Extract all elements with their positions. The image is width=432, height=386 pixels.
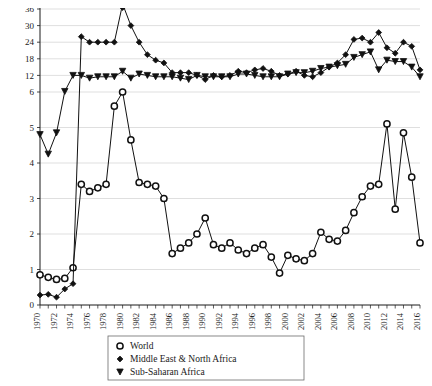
data-point-open-circle bbox=[334, 238, 340, 244]
data-point-open-circle bbox=[111, 103, 117, 109]
x-tick-label: 1972 bbox=[49, 313, 59, 330]
data-point-filled-triangle bbox=[45, 151, 51, 157]
data-point-filled-diamond bbox=[136, 39, 142, 45]
data-point-open-circle bbox=[186, 240, 192, 246]
data-point-open-circle bbox=[95, 185, 101, 191]
data-point-filled-diamond bbox=[384, 45, 390, 51]
data-point-filled-diamond bbox=[153, 57, 159, 63]
data-point-filled-triangle bbox=[359, 52, 365, 58]
data-point-filled-diamond bbox=[95, 39, 101, 45]
x-tick-label: 1990 bbox=[197, 313, 207, 330]
data-point-open-circle bbox=[301, 258, 307, 264]
data-point-filled-diamond bbox=[417, 67, 423, 73]
data-point-filled-triangle bbox=[37, 132, 43, 138]
x-tick-label: 1992 bbox=[214, 313, 224, 330]
data-point-open-circle bbox=[45, 274, 51, 280]
x-tick-label: 2016 bbox=[412, 313, 422, 330]
data-point-open-circle bbox=[252, 245, 258, 251]
x-tick-label: 1988 bbox=[181, 313, 191, 330]
data-point-filled-diamond bbox=[45, 291, 51, 297]
data-point-open-circle bbox=[235, 247, 241, 253]
data-point-open-circle bbox=[409, 174, 415, 180]
data-point-open-circle bbox=[194, 231, 200, 237]
y-tick-label: 24 bbox=[25, 37, 35, 47]
x-tick-label: 1984 bbox=[148, 312, 158, 330]
y-axis-ticks: 01234561218243036 bbox=[25, 4, 40, 310]
data-point-open-circle bbox=[128, 137, 134, 143]
data-point-filled-diamond bbox=[260, 66, 266, 72]
data-point-open-circle bbox=[86, 188, 92, 194]
data-point-open-circle bbox=[177, 245, 183, 251]
data-point-filled-diamond bbox=[351, 37, 357, 43]
data-point-open-circle bbox=[161, 195, 167, 201]
x-axis-ticks: 1970197219741976197819801982198419861988… bbox=[32, 305, 422, 330]
data-point-filled-diamond bbox=[144, 52, 150, 58]
x-tick-label: 1982 bbox=[131, 313, 141, 330]
y-tick-label: 3 bbox=[30, 194, 35, 204]
legend-label: Middle East & North Africa bbox=[130, 354, 237, 364]
y-tick-label: 18 bbox=[25, 54, 35, 64]
data-point-open-circle bbox=[268, 254, 274, 260]
gridlines bbox=[40, 9, 420, 270]
data-point-open-circle bbox=[260, 242, 266, 248]
data-point-open-circle bbox=[219, 245, 225, 251]
data-point-open-circle bbox=[326, 236, 332, 242]
data-point-open-circle bbox=[169, 250, 175, 256]
x-tick-label: 1986 bbox=[164, 313, 174, 330]
chart-container: 0123456121824303619701972197419761978198… bbox=[0, 0, 432, 386]
data-point-filled-diamond bbox=[37, 292, 43, 298]
x-tick-label: 2010 bbox=[362, 313, 372, 330]
data-point-filled-diamond bbox=[178, 70, 184, 76]
data-point-open-circle bbox=[37, 272, 43, 278]
x-tick-label: 1998 bbox=[263, 313, 273, 330]
data-point-filled-triangle bbox=[128, 75, 134, 81]
x-tick-label: 1978 bbox=[98, 313, 108, 330]
data-point-open-circle bbox=[243, 250, 249, 256]
data-point-open-circle bbox=[103, 181, 109, 187]
y-tick-label: 12 bbox=[25, 71, 34, 81]
data-point-filled-diamond bbox=[252, 67, 258, 73]
data-point-open-circle bbox=[392, 206, 398, 212]
y-tick-label: 0 bbox=[30, 300, 35, 310]
x-tick-label: 2004 bbox=[313, 312, 323, 330]
series-line bbox=[40, 52, 420, 154]
y-tick-label: 6 bbox=[30, 87, 35, 97]
data-point-filled-diamond bbox=[78, 34, 84, 40]
x-tick-label: 2000 bbox=[280, 313, 290, 330]
data-point-open-circle bbox=[78, 181, 84, 187]
data-point-open-circle bbox=[227, 240, 233, 246]
data-point-open-circle bbox=[359, 194, 365, 200]
data-point-open-circle bbox=[120, 89, 126, 95]
data-point-open-circle bbox=[293, 256, 299, 262]
series-sub-saharan-africa bbox=[37, 49, 423, 157]
data-point-open-circle bbox=[310, 250, 316, 256]
x-tick-label: 1994 bbox=[230, 312, 240, 330]
x-tick-label: 1970 bbox=[32, 313, 42, 330]
data-point-open-circle bbox=[210, 242, 216, 248]
line-chart: 0123456121824303619701972197419761978198… bbox=[0, 0, 432, 386]
data-point-filled-diamond bbox=[186, 70, 192, 76]
x-tick-label: 2002 bbox=[296, 313, 306, 330]
data-point-filled-diamond bbox=[103, 39, 109, 45]
data-point-open-circle bbox=[384, 121, 390, 127]
legend-label: Sub-Saharan Africa bbox=[130, 367, 205, 377]
series-line bbox=[40, 4, 420, 297]
series-world bbox=[37, 89, 423, 283]
x-tick-label: 2012 bbox=[379, 313, 389, 330]
x-tick-label: 1980 bbox=[115, 313, 125, 330]
data-point-filled-diamond bbox=[70, 281, 76, 287]
series-middle-east-north-africa bbox=[37, 4, 423, 300]
data-series-group bbox=[37, 4, 423, 300]
data-point-open-circle bbox=[62, 275, 68, 281]
data-point-filled-diamond bbox=[87, 39, 93, 45]
x-tick-label: 2008 bbox=[346, 313, 356, 330]
data-point-open-circle bbox=[136, 179, 142, 185]
y-tick-label: 2 bbox=[30, 229, 35, 239]
data-point-filled-diamond bbox=[128, 23, 134, 29]
x-tick-label: 1974 bbox=[65, 312, 75, 330]
y-tick-label: 30 bbox=[25, 21, 35, 31]
data-point-filled-diamond bbox=[409, 43, 415, 49]
x-tick-label: 2006 bbox=[329, 313, 339, 330]
data-point-open-circle bbox=[318, 229, 324, 235]
data-point-open-circle bbox=[400, 130, 406, 136]
